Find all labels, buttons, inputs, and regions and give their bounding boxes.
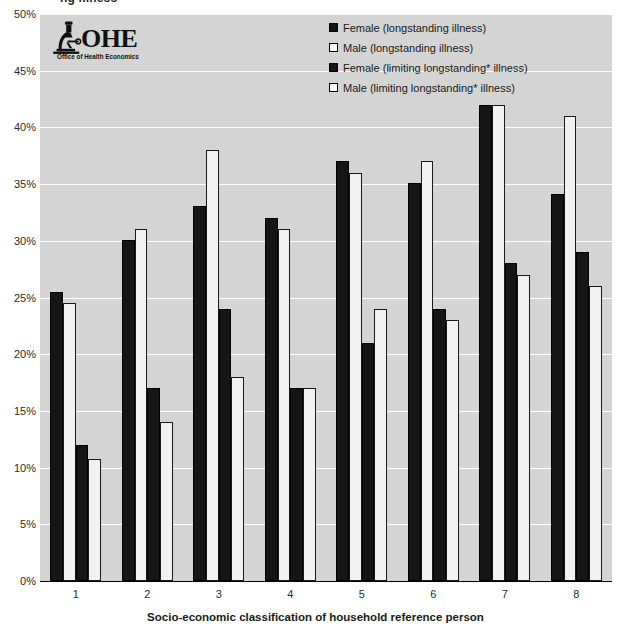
legend-swatch-icon [329,23,338,32]
bar [206,150,219,581]
bar [374,309,387,581]
bar-chart: ng illness 0%5%10%15%20%25%30%35%40%45%5… [0,0,631,633]
x-axis-tick-label: 1 [73,588,79,600]
legend-swatch-icon [329,43,338,52]
chart-legend: Female (longstanding illness)Male (longs… [329,18,597,98]
y-axis-tick-label: 30% [2,235,36,247]
bar [303,388,316,581]
bar [421,161,434,581]
bar [219,309,232,581]
legend-label: Female (limiting longstanding* illness) [343,62,528,74]
plot-area [40,14,612,581]
legend-item: Female (limiting longstanding* illness) [329,58,597,77]
x-axis-line [40,581,612,582]
legend-item: Female (longstanding illness) [329,18,597,37]
x-axis-tick-label: 8 [573,588,579,600]
bar [265,218,278,581]
bar [63,303,76,581]
legend-label: Male (limiting longstanding* illness) [343,82,515,94]
bar [479,105,492,581]
bar [576,252,589,581]
bars-layer [40,14,612,581]
bar [135,229,148,581]
bar [160,422,173,581]
x-axis-tick-label: 6 [430,588,436,600]
bar [278,229,291,581]
y-axis-tick-label: 45% [2,65,36,77]
ohe-logo: OHE Office of Health Economics [48,19,152,64]
bar [362,343,375,581]
bar [50,292,63,581]
x-axis-tick-label: 4 [287,588,293,600]
y-axis-tick-label: 40% [2,121,36,133]
legend-swatch-icon [329,83,338,92]
y-axis-tick-label: 5% [2,518,36,530]
bar [336,161,349,581]
y-axis-tick-label: 20% [2,348,36,360]
ohe-logo-graphic: OHE Office of Health Economics [48,19,152,64]
bar [147,388,160,581]
ohe-tagline-text: Office of Health Economics [57,53,139,60]
chart-title-fragment: ng illness [60,0,117,5]
ohe-acronym-text: OHE [81,24,137,53]
bar [551,194,564,581]
x-axis-tick-label: 3 [216,588,222,600]
bar [76,445,89,581]
bar [505,263,518,581]
y-axis-tick-label: 15% [2,405,36,417]
legend-item: Male (limiting longstanding* illness) [329,78,597,97]
bar [517,275,530,581]
bar [231,377,244,581]
bar [122,240,135,581]
legend-swatch-icon [329,63,338,72]
bar [349,173,362,581]
legend-label: Male (longstanding illness) [343,42,473,54]
legend-item: Male (longstanding illness) [329,38,597,57]
microscope-icon [53,22,80,54]
bar [193,206,206,581]
bar [88,459,101,581]
bar [564,116,577,581]
bar [446,320,459,581]
y-axis-tick-label: 0% [2,575,36,587]
bar [433,309,446,581]
y-axis-tick-label: 35% [2,178,36,190]
bar [290,388,303,581]
y-axis-tick-label: 10% [2,462,36,474]
y-axis-tick-label: 50% [2,8,36,20]
bar [492,105,505,581]
x-axis-tick-label: 5 [359,588,365,600]
bar [408,183,421,581]
legend-label: Female (longstanding illness) [343,22,486,34]
bar [589,286,602,581]
x-axis-tick-label: 2 [144,588,150,600]
x-axis-title: Socio-economic classification of househo… [0,611,631,623]
x-axis-tick-label: 7 [502,588,508,600]
y-axis-tick-label: 25% [2,292,36,304]
y-axis-labels: 0%5%10%15%20%25%30%35%40%45%50% [0,0,36,633]
